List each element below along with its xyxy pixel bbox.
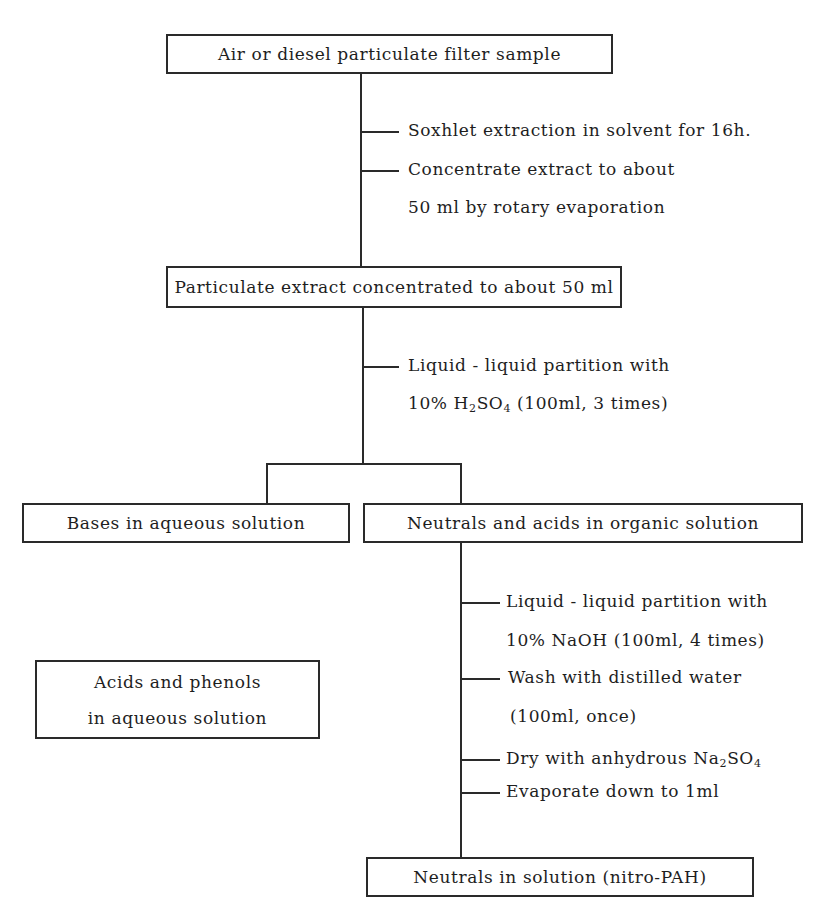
step-h2so4: Liquid - liquid partition with <box>408 355 670 375</box>
split-bar <box>266 463 462 465</box>
node-acids-phenols: Acids and phenols in aqueous solution <box>35 660 320 739</box>
dry-sub1: 2 <box>720 757 728 770</box>
h2so4-sub2: 4 <box>503 402 511 415</box>
step-soxhlet: Soxhlet extraction in solvent for 16h. <box>408 120 751 140</box>
step-evaporate: Evaporate down to 1ml <box>506 781 719 801</box>
h2so4-sub1: 2 <box>469 402 477 415</box>
step-naoh-cont: 10% NaOH (100ml, 4 times) <box>506 630 765 650</box>
node-filter-sample: Air or diesel particulate filter sample <box>166 34 613 74</box>
connector-3b-final <box>460 543 462 861</box>
node-acids-phenols-line1: Acids and phenols <box>94 664 261 700</box>
node-neutrals-final-label: Neutrals in solution (nitro-PAH) <box>413 867 706 887</box>
step-concentrate-cont: 50 ml by rotary evaporation <box>408 197 665 217</box>
step-tick-evaporate <box>461 792 500 794</box>
step-tick-dry <box>461 759 500 761</box>
step-h2so4-cont: 10% H2SO4 (100ml, 3 times) <box>408 393 668 415</box>
step-tick-wash <box>461 678 500 680</box>
node-bases-aqueous: Bases in aqueous solution <box>22 503 350 543</box>
node-extract-concentrated: Particulate extract concentrated to abou… <box>166 266 622 308</box>
node-acids-phenols-line2: in aqueous solution <box>88 700 267 736</box>
step-tick-naoh <box>461 602 500 604</box>
step-wash-cont: (100ml, once) <box>510 706 637 726</box>
node-bases-aqueous-label: Bases in aqueous solution <box>67 513 305 533</box>
dry-text-mid: SO <box>727 748 754 768</box>
h2so4-text-mid: SO <box>477 393 504 413</box>
dry-sub2: 4 <box>754 757 762 770</box>
step-concentrate: Concentrate extract to about <box>408 159 675 179</box>
step-dry: Dry with anhydrous Na2SO4 <box>506 748 762 770</box>
connector-1-2 <box>360 74 362 276</box>
step-tick-soxhlet <box>361 131 399 133</box>
node-filter-sample-label: Air or diesel particulate filter sample <box>218 44 561 64</box>
split-right-drop <box>460 463 462 504</box>
h2so4-text-pre: 10% H <box>408 393 469 413</box>
connector-2-split <box>362 308 364 463</box>
node-neutrals-acids-organic: Neutrals and acids in organic solution <box>363 503 803 543</box>
step-wash: Wash with distilled water <box>508 667 742 687</box>
node-extract-concentrated-label: Particulate extract concentrated to abou… <box>174 277 613 297</box>
split-left-drop <box>266 463 268 504</box>
step-tick-concentrate <box>361 170 399 172</box>
node-neutrals-final: Neutrals in solution (nitro-PAH) <box>366 857 754 897</box>
step-tick-h2so4 <box>363 366 399 368</box>
dry-text-pre: Dry with anhydrous Na <box>506 748 720 768</box>
node-neutrals-acids-organic-label: Neutrals and acids in organic solution <box>407 513 759 533</box>
h2so4-text-post: (100ml, 3 times) <box>517 393 668 413</box>
step-naoh: Liquid - liquid partition with <box>506 591 768 611</box>
